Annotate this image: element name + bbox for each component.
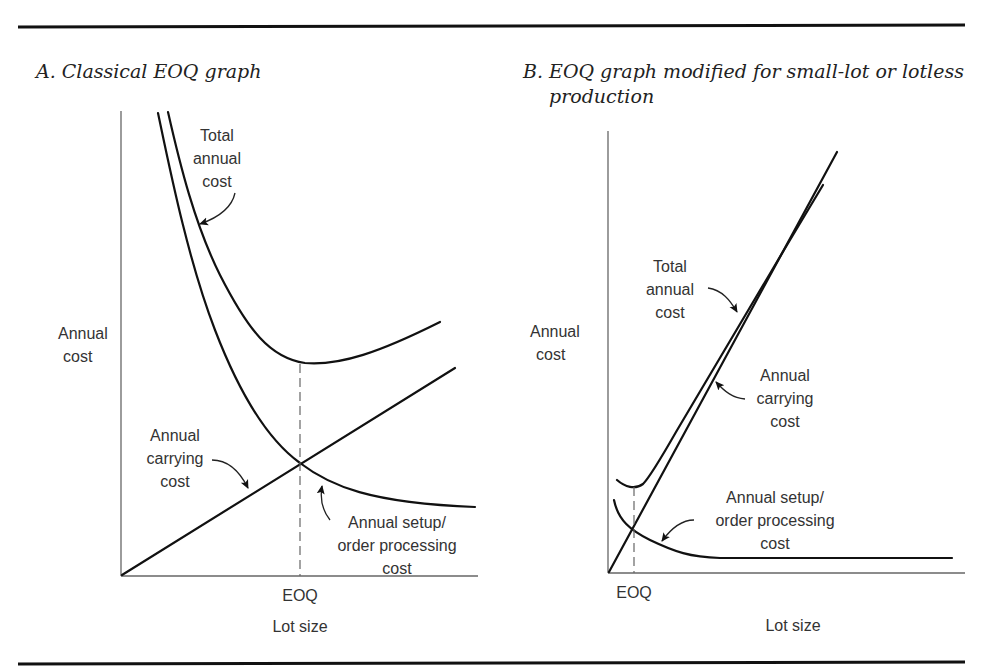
panel-b-setup-label-3: cost [760, 535, 790, 552]
panel-a-total-label: Total [200, 127, 234, 144]
panel-b: B. EOQ graph modified for small-lot or l… [522, 60, 965, 634]
panel-a-setup-label-2: order processing [337, 537, 456, 554]
panel-b-title-2: production [549, 85, 654, 107]
panel-a-ylabel: Annual [58, 325, 108, 342]
panel-a-total-arrow-icon [200, 193, 235, 224]
panel-a-eoq-tick: EOQ [282, 587, 318, 604]
panel-a-carrying-arrow-icon [212, 460, 248, 488]
panel-b-carrying-label-3: cost [770, 413, 800, 430]
top-rule [18, 25, 965, 27]
panel-b-title: B. EOQ graph modified for small-lot or l… [522, 60, 964, 82]
panel-a-setup-label: Annual setup/ [348, 514, 446, 531]
panel-b-carrying-arrow-icon [716, 382, 745, 399]
panel-b-total-label: Total [653, 258, 687, 275]
panel-a-total-label-3: cost [202, 173, 232, 190]
panel-b-total-label-2: annual [646, 281, 694, 298]
panel-b-setup-arrow-icon [662, 520, 694, 541]
panel-a-ylabel-2: cost [63, 348, 93, 365]
panel-b-carrying-label-2: carrying [757, 390, 814, 407]
panel-a-setup-arrow-icon [321, 486, 330, 520]
panel-a-total-label-2: annual [193, 150, 241, 167]
panel-b-carrying-label: Annual [760, 367, 810, 384]
panel-a: A. Classical EOQ graph Annual cost Total… [34, 60, 478, 635]
panel-b-total-label-3: cost [655, 304, 685, 321]
panel-a-setup-label-3: cost [382, 560, 412, 577]
panel-b-setup-label: Annual setup/ [726, 489, 824, 506]
panel-b-total-curve [617, 185, 823, 487]
panel-a-title: A. Classical EOQ graph [34, 60, 261, 82]
panel-b-carrying-line [609, 152, 837, 572]
panel-b-setup-label-2: order processing [715, 512, 834, 529]
panel-b-xlabel: Lot size [765, 617, 820, 634]
panel-a-carrying-label-3: cost [160, 473, 190, 490]
panel-b-total-arrow-icon [708, 288, 737, 312]
panel-b-ylabel: Annual [530, 323, 580, 340]
eoq-figure: A. Classical EOQ graph Annual cost Total… [0, 0, 993, 671]
panel-a-carrying-label-2: carrying [147, 450, 204, 467]
panel-a-xlabel: Lot size [272, 618, 327, 635]
panel-b-eoq-tick: EOQ [616, 584, 652, 601]
panel-b-ylabel-2: cost [536, 346, 566, 363]
panel-a-carrying-label: Annual [150, 427, 200, 444]
bottom-rule [18, 662, 965, 664]
